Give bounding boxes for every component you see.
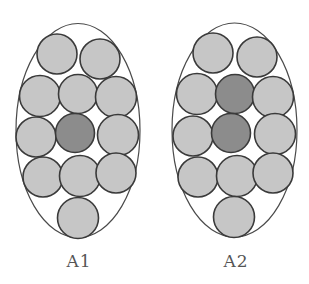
panel-label-a1: A1 <box>59 251 99 271</box>
light-circle <box>20 76 61 117</box>
light-circle <box>80 39 120 79</box>
light-circle <box>217 156 258 197</box>
light-circle <box>96 77 137 118</box>
panel-a2 <box>172 23 297 238</box>
panel-a1 <box>16 24 140 239</box>
light-circle <box>253 153 293 193</box>
dark-circle <box>216 75 255 114</box>
light-circle <box>37 34 77 74</box>
light-circle <box>173 116 213 156</box>
light-circle <box>96 153 136 193</box>
dark-circle <box>56 114 95 153</box>
circle-packing-diagram <box>0 0 309 284</box>
panel-label-a2: A2 <box>216 251 256 271</box>
light-circle <box>16 117 56 157</box>
light-circle <box>23 157 63 197</box>
light-circle <box>177 74 218 115</box>
dark-circle <box>212 114 251 153</box>
light-circle <box>253 77 294 118</box>
light-circle <box>59 75 98 114</box>
light-circle <box>60 156 101 197</box>
light-circle <box>178 157 218 197</box>
light-circle <box>237 37 277 77</box>
light-circle <box>214 197 255 238</box>
light-circle <box>58 198 99 239</box>
light-circle <box>193 33 233 73</box>
light-circle <box>98 115 139 156</box>
light-circle <box>255 114 296 155</box>
